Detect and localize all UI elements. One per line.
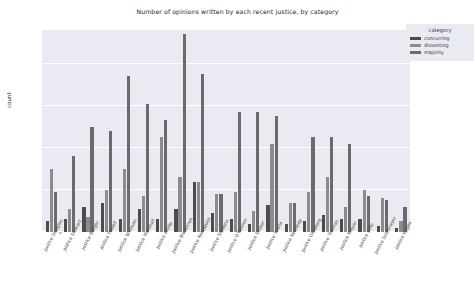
bar bbox=[138, 209, 141, 232]
bar-group bbox=[79, 30, 97, 232]
bar bbox=[156, 219, 159, 232]
legend-entries: concurringdissentingmajority bbox=[410, 36, 470, 55]
bar bbox=[252, 211, 255, 232]
x-tick: Justice Scalia bbox=[263, 234, 281, 294]
x-tick: Justice Rehnquist bbox=[189, 234, 207, 294]
x-tick: Justice Ginsburg bbox=[300, 234, 318, 294]
bar bbox=[193, 182, 196, 233]
bar bbox=[311, 137, 314, 232]
plot-area bbox=[42, 30, 410, 232]
bar bbox=[270, 144, 273, 232]
bar bbox=[90, 127, 93, 232]
bar bbox=[215, 194, 218, 232]
bar bbox=[64, 219, 67, 232]
chart-title: Number of opinions written by each recen… bbox=[0, 8, 475, 15]
bar bbox=[142, 196, 145, 232]
bar bbox=[211, 213, 214, 232]
bar-group bbox=[42, 30, 60, 232]
chart-figure: Number of opinions written by each recen… bbox=[0, 0, 475, 295]
bar bbox=[358, 219, 361, 232]
legend-label: majority bbox=[424, 50, 444, 55]
bar bbox=[127, 76, 130, 232]
x-tick: Justice Marshall bbox=[134, 234, 152, 294]
x-axis-ticks: Justice DouglasJustice StewartJustice Bu… bbox=[42, 234, 410, 294]
x-tick: Justice Stewart bbox=[60, 234, 78, 294]
x-tick: Justice Douglas bbox=[42, 234, 60, 294]
bar bbox=[164, 120, 167, 232]
bar bbox=[160, 137, 163, 232]
bar bbox=[289, 203, 292, 232]
bar bbox=[256, 112, 259, 232]
bar bbox=[46, 221, 49, 232]
x-tick: Justice White bbox=[152, 234, 170, 294]
bar bbox=[285, 224, 288, 232]
bar bbox=[183, 34, 186, 232]
bar-group bbox=[171, 30, 189, 232]
y-axis-label: count bbox=[6, 92, 12, 108]
bar-group bbox=[244, 30, 262, 232]
bar bbox=[72, 156, 75, 232]
x-tick: Justice O'Connor bbox=[226, 234, 244, 294]
legend: category concurringdissentingmajority bbox=[406, 24, 474, 61]
legend-swatch bbox=[410, 37, 421, 40]
bar bbox=[330, 137, 333, 232]
bar-group bbox=[373, 30, 391, 232]
bar bbox=[109, 131, 112, 232]
x-tick: Justice Kagan bbox=[392, 234, 410, 294]
x-tick: Justice Alito bbox=[355, 234, 373, 294]
bar-group bbox=[355, 30, 373, 232]
x-tick: Justice Breyer bbox=[337, 234, 355, 294]
bar bbox=[82, 207, 85, 232]
x-tick: Justice Souter bbox=[244, 234, 262, 294]
bar bbox=[234, 192, 237, 232]
bar bbox=[363, 190, 366, 232]
x-tick: Justice Sotomayor bbox=[373, 234, 391, 294]
legend-entry: concurring bbox=[410, 36, 470, 41]
bar bbox=[123, 169, 126, 232]
bar bbox=[146, 104, 149, 232]
x-tick: Justice Blackmun bbox=[171, 234, 189, 294]
bar-group bbox=[134, 30, 152, 232]
bar-group bbox=[97, 30, 115, 232]
bar bbox=[348, 144, 351, 232]
bar bbox=[230, 219, 233, 232]
bar bbox=[303, 221, 306, 232]
bar bbox=[266, 205, 269, 232]
bar bbox=[101, 203, 104, 232]
x-tick: Justice Stevens bbox=[208, 234, 226, 294]
bar bbox=[395, 228, 398, 232]
bar bbox=[344, 207, 347, 232]
bar bbox=[340, 219, 343, 232]
legend-label: dissenting bbox=[424, 43, 449, 48]
bar-group bbox=[263, 30, 281, 232]
bar bbox=[105, 190, 108, 232]
x-tick: Justice Brennan bbox=[116, 234, 134, 294]
bar bbox=[50, 169, 53, 232]
bar bbox=[119, 219, 122, 232]
x-tick: Justice Thomas bbox=[318, 234, 336, 294]
bar bbox=[326, 177, 329, 232]
bar-group bbox=[226, 30, 244, 232]
bar-group bbox=[337, 30, 355, 232]
bar-group bbox=[208, 30, 226, 232]
bar bbox=[307, 192, 310, 232]
legend-entry: majority bbox=[410, 50, 470, 55]
x-tick: Justice Powell bbox=[97, 234, 115, 294]
bar-group bbox=[152, 30, 170, 232]
bar-group bbox=[116, 30, 134, 232]
bar-group bbox=[300, 30, 318, 232]
bar bbox=[377, 226, 380, 232]
bar bbox=[275, 116, 278, 232]
legend-title: category bbox=[410, 27, 470, 33]
bar-group bbox=[189, 30, 207, 232]
legend-swatch bbox=[410, 44, 421, 47]
bar bbox=[201, 74, 204, 232]
legend-label: concurring bbox=[424, 36, 450, 41]
bar bbox=[174, 209, 177, 232]
x-tick: Justice Burger bbox=[79, 234, 97, 294]
bar bbox=[178, 177, 181, 232]
bar-group bbox=[318, 30, 336, 232]
bar bbox=[248, 224, 251, 232]
bar bbox=[381, 198, 384, 232]
bar bbox=[68, 209, 71, 232]
